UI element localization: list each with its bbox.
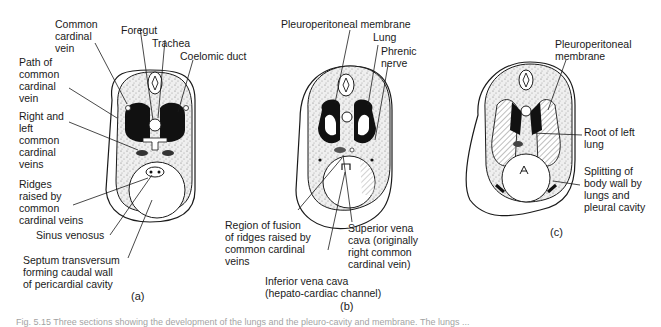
label-right-and-left-common-cardinal-veins: Right and left common cardinal veins [19, 110, 64, 170]
label-ridges-raised-by-common-cardinal-veins: Ridges raised by common cardinal veins [19, 178, 83, 226]
figure-caption: Fig. 5.15 Three sections showing the dev… [16, 317, 469, 327]
panel-c-drawing [466, 62, 575, 216]
label-common-cardinal-vein: Common cardinal vein [55, 18, 98, 54]
label-splitting-of-body-wall: Splitting of body wall by lungs and pleu… [584, 165, 645, 213]
panel-label-a: (a) [131, 290, 144, 302]
label-septum-transversum: Septum transversum forming caudal wall o… [23, 254, 120, 290]
panel-b-drawing [296, 66, 392, 229]
label-phrenic-nerve: Phrenic nerve [381, 45, 417, 69]
label-coelomic-duct: Coelomic duct [180, 50, 247, 62]
panel-label-c: (c) [550, 226, 563, 238]
label-sinus-venosus: Sinus venosus [36, 229, 104, 241]
label-pleuroperitoneal-membrane-b: Pleuroperitoneal membrane [281, 18, 411, 30]
label-root-of-left-lung: Root of left lung [584, 126, 635, 150]
label-region-of-fusion: Region of fusion of ridges raised by com… [225, 219, 311, 267]
label-inferior-vena-cava: Inferior vena cava (hepato-cardiac chann… [265, 275, 381, 299]
label-foregut: Foregut [121, 24, 157, 36]
label-pleuroperitoneal-membrane-c: Pleuroperitoneal membrane [555, 38, 631, 62]
label-path-of-common-cardinal-vein: Path of common cardinal vein [19, 56, 59, 104]
panel-a-drawing [106, 70, 195, 222]
panel-label-b: (b) [340, 300, 353, 312]
label-lung: Lung [373, 31, 396, 43]
label-superior-vena-cava: Superior vena cava (originally right com… [348, 222, 418, 270]
label-trachea: Trachea [152, 37, 190, 49]
